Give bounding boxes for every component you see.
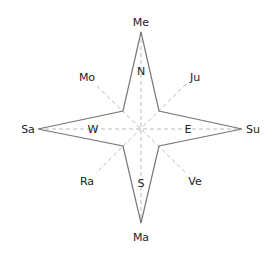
label-sa: Sa <box>21 123 35 136</box>
label-mo: Mo <box>79 71 95 84</box>
label-me: Me <box>133 16 149 29</box>
label-ma: Ma <box>133 231 149 244</box>
label-e: E <box>185 123 192 136</box>
label-su: Su <box>246 123 260 136</box>
label-w: W <box>88 123 99 136</box>
label-n: N <box>137 65 145 78</box>
compass-rose <box>0 0 274 259</box>
label-s: S <box>138 177 145 190</box>
label-ve: Ve <box>188 175 201 188</box>
label-ra: Ra <box>80 175 94 188</box>
label-ju: Ju <box>190 71 200 84</box>
dashed-guides <box>38 32 242 223</box>
